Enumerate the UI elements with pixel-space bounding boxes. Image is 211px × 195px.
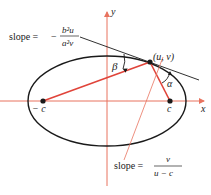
slope-prefix: slope = — [114, 160, 144, 171]
focus-right-label: c — [167, 103, 172, 114]
beta-label: β — [111, 60, 118, 72]
tangent-slope-denominator: a²v — [62, 38, 73, 48]
ellipse-reflection-diagram: x y (u, v) β α − c c slope = − b²u a²v s… — [0, 0, 211, 195]
y-axis-label: y — [110, 6, 116, 17]
focal-line-left — [43, 62, 150, 101]
focus-left-label: − c — [32, 103, 46, 114]
point-uv — [147, 59, 152, 64]
alpha-label: α — [167, 78, 173, 89]
slope-line — [124, 57, 163, 160]
tangent-slope-sign: − — [51, 31, 57, 42]
tangent-slope-formula: slope = − b²u a²v — [9, 25, 79, 48]
point-uv-label: (u, v) — [153, 51, 175, 63]
slope-numerator: v — [166, 154, 170, 164]
slope-denominator: u − c — [154, 168, 173, 178]
tangent-line — [80, 37, 199, 80]
x-axis-label: x — [200, 103, 206, 114]
tangent-slope-prefix: slope = — [9, 31, 39, 42]
tangent-slope-numerator: b²u — [62, 25, 74, 35]
slope-formula: slope = v u − c — [114, 154, 182, 178]
